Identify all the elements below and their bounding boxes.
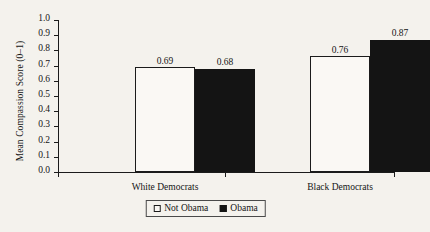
bar-obama: 0.87 (370, 40, 430, 172)
legend-label: Not Obama (164, 203, 208, 213)
y-axis-tick (54, 111, 58, 112)
y-axis-tick-label: 0.9 (24, 28, 50, 38)
chart-legend: Not ObamaObama (145, 200, 266, 217)
y-axis-tick (54, 157, 58, 158)
x-axis-line (58, 172, 395, 173)
legend-entry: Not Obama (153, 203, 208, 213)
hollow-square-icon (153, 205, 160, 212)
category-label: Black Democrats (307, 182, 373, 192)
y-axis-tick (54, 126, 58, 127)
legend-entry: Obama (219, 203, 257, 213)
y-axis-tick (54, 66, 58, 67)
y-axis-tick-label: 0.1 (24, 150, 50, 160)
y-axis-tick (54, 35, 58, 36)
y-axis-tick (54, 81, 58, 82)
y-axis-tick (54, 50, 58, 51)
x-axis-tick (58, 172, 59, 177)
category-label: White Democrats (132, 182, 199, 192)
filled-square-icon (219, 205, 226, 212)
x-axis-tick (225, 172, 226, 177)
y-axis-tick (54, 20, 58, 21)
legend-label: Obama (230, 203, 257, 213)
y-axis-line (58, 20, 59, 173)
bar-not-obama: 0.76 (310, 56, 370, 172)
y-axis-tick-label: 1.0 (24, 13, 50, 23)
y-axis-tick-label: 0.2 (24, 135, 50, 145)
y-axis-tick-label: 0.6 (24, 74, 50, 84)
bar-obama: 0.68 (195, 69, 255, 172)
bar-not-obama: 0.69 (135, 67, 195, 172)
y-axis-tick-label: 0.4 (24, 104, 50, 114)
y-axis-tick-label: 0.0 (24, 165, 50, 175)
y-axis-tick-label: 0.7 (24, 59, 50, 69)
x-axis-tick (394, 172, 395, 177)
bar-value-label: 0.87 (392, 28, 409, 38)
y-axis-tick-label: 0.8 (24, 43, 50, 53)
y-axis-tick-label: 0.5 (24, 89, 50, 99)
y-axis-tick (54, 96, 58, 97)
y-axis-tick (54, 142, 58, 143)
bar-value-label: 0.68 (217, 57, 234, 67)
y-axis-tick-label: 0.3 (24, 119, 50, 129)
plot-area: 0.00.10.20.30.40.50.60.70.80.91.0 0.690.… (58, 20, 395, 172)
bar-value-label: 0.69 (157, 56, 174, 66)
bar-value-label: 0.76 (332, 45, 349, 55)
